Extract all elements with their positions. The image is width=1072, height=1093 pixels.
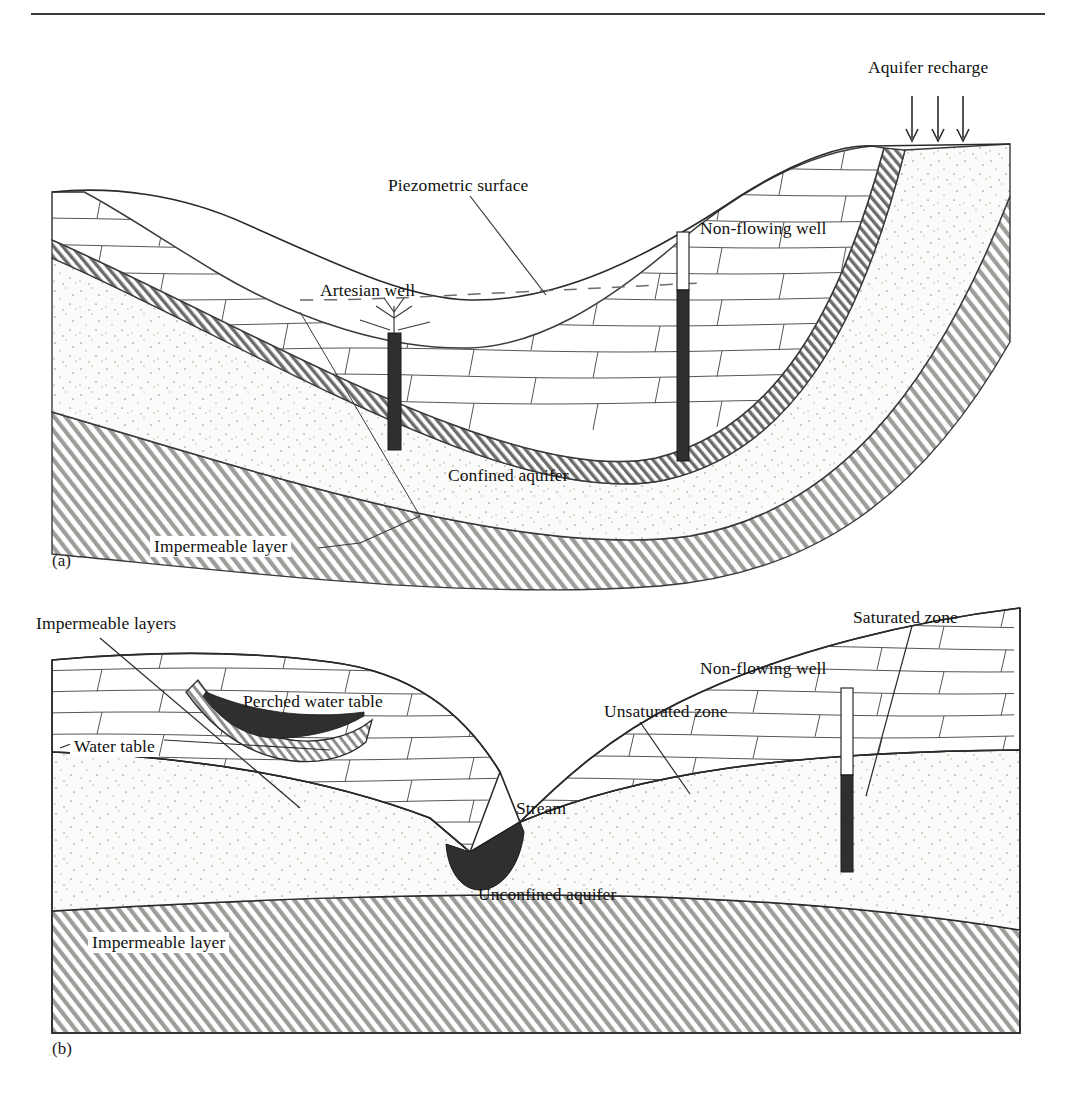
label-non-flowing-well-b: Non-flowing well xyxy=(700,659,827,678)
panel-b-tag: (b) xyxy=(52,1039,72,1059)
label-perched-water-table: Perched water table xyxy=(243,692,383,711)
figure-page: Aquifer recharge Piezometric surface Non… xyxy=(0,0,1072,1093)
non-flowing-well-b xyxy=(841,688,853,872)
label-impermeable-layers: Impermeable layers xyxy=(36,614,176,633)
label-impermeable-layer-a: Impermeable layer xyxy=(150,536,291,557)
stratum-impermeable-layer-b xyxy=(52,895,1020,1033)
label-saturated-zone: Saturated zone xyxy=(853,608,958,627)
label-piezometric-surface: Piezometric surface xyxy=(388,176,528,195)
leader-piezometric-surface xyxy=(470,196,546,295)
label-unsaturated-zone: Unsaturated zone xyxy=(604,702,728,721)
label-water-table: Water table xyxy=(70,736,159,757)
panel-a-confined-aquifer xyxy=(0,0,1072,600)
panel-a-tag: (a) xyxy=(52,551,71,571)
label-artesian-well: Artesian well xyxy=(320,281,415,300)
label-unconfined-aquifer: Unconfined aquifer xyxy=(478,885,616,904)
non-flowing-well-a xyxy=(677,232,689,461)
panel-b-unconfined-aquifer xyxy=(0,600,1072,1060)
aquifer-recharge-arrows xyxy=(906,96,969,141)
label-aquifer-recharge: Aquifer recharge xyxy=(868,58,988,77)
label-confined-aquifer: Confined aquifer xyxy=(448,466,569,485)
label-impermeable-layer-b: Impermeable layer xyxy=(88,932,229,953)
label-non-flowing-well-a: Non-flowing well xyxy=(700,219,827,238)
label-stream: Stream xyxy=(516,799,566,818)
